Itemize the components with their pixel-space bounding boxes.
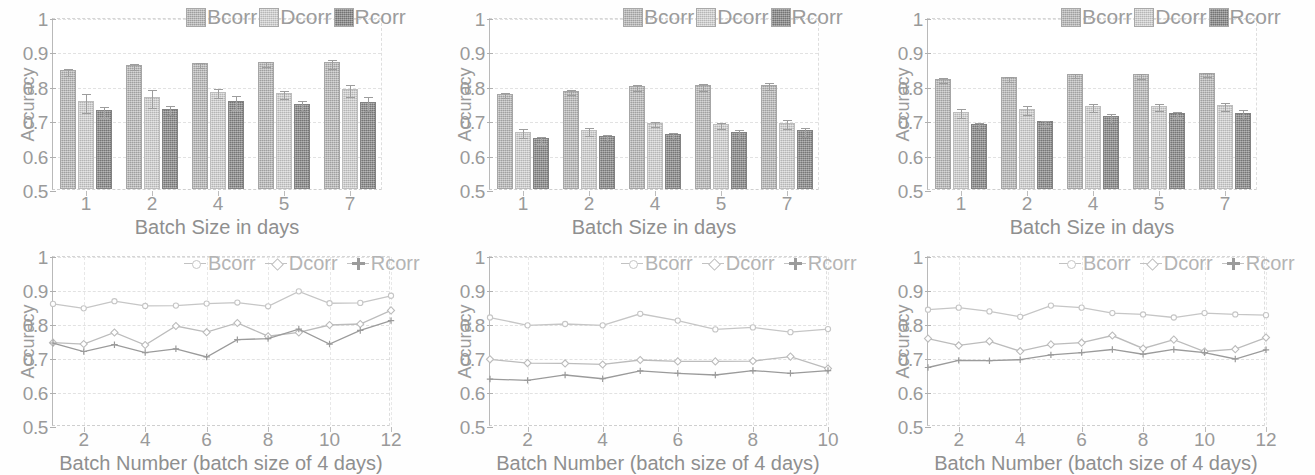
error-bar-cap-upper — [1137, 74, 1146, 75]
error-bar-cap-lower — [148, 108, 157, 109]
y-axis-label: Accuracy — [18, 55, 39, 155]
marker-bcorr — [600, 323, 605, 328]
y-tick-mark — [925, 53, 931, 54]
error-bar-cap-lower — [1173, 118, 1182, 119]
y-tick-label: 0.5 — [23, 182, 48, 201]
legend-label: Rcorr — [1246, 252, 1295, 275]
marker-bcorr — [204, 301, 209, 306]
y-tick-label: 0.5 — [898, 418, 923, 437]
x-tick-mark — [678, 427, 679, 432]
legend-marker-symbol — [1146, 258, 1159, 271]
x-tick-mark — [218, 191, 219, 196]
error-bar-cap-lower — [280, 99, 289, 100]
line-rcorr — [928, 349, 1266, 367]
marker-dcorr — [599, 361, 606, 368]
legend-label: Rcorr — [792, 5, 843, 29]
marker-bcorr — [143, 303, 148, 308]
error-bar-cap-upper — [232, 96, 241, 97]
x-tick-label: 10 — [1194, 430, 1215, 449]
error-bar-cap-lower — [783, 129, 792, 130]
legend-swatch-dcorr — [259, 8, 279, 27]
x-tick-label: 7 — [1220, 194, 1231, 213]
y-axis-label: Accuracy — [893, 55, 914, 155]
y-tick-label: 1 — [913, 10, 923, 29]
error-bar-cap-upper — [735, 130, 744, 131]
x-tick-label: 4 — [1015, 430, 1026, 449]
y-axis-label: Accuracy — [893, 292, 914, 392]
x-axis-label: Batch Size in days — [52, 216, 382, 239]
marker-dcorr — [172, 322, 179, 329]
error-bar-cap-upper — [82, 94, 91, 95]
legend-marker-symbol — [629, 260, 638, 269]
error-bar — [523, 129, 524, 138]
x-tick-label: 12 — [1255, 430, 1276, 449]
marker-dcorr — [111, 329, 118, 336]
marker-dcorr — [924, 335, 931, 342]
error-bar — [769, 83, 770, 90]
error-bar-cap-upper — [1239, 110, 1248, 111]
bar-rcorr — [1235, 113, 1251, 189]
bar-rcorr — [731, 132, 747, 189]
legend-swatch-bcorr — [186, 8, 206, 27]
x-tick-mark — [1143, 427, 1144, 432]
error-bar-cap-upper — [699, 84, 708, 85]
marker-rcorr — [1171, 346, 1177, 352]
marker-bcorr — [825, 326, 830, 331]
error-bar-cap-lower — [651, 127, 660, 128]
bar-rcorr — [96, 110, 112, 189]
error-bar-cap-lower — [130, 70, 139, 71]
y-tick-mark — [925, 191, 931, 192]
chart-legend: BcorrDcorrRcorr — [623, 5, 845, 29]
bar-rcorr — [294, 104, 310, 189]
bar-rcorr — [1169, 113, 1185, 189]
marker-rcorr — [1263, 347, 1269, 353]
x-tick-label: 6 — [201, 430, 212, 449]
marker-rcorr — [326, 341, 332, 347]
error-bar-cap-lower — [1239, 119, 1248, 120]
bar-rcorr — [599, 136, 615, 189]
marker-dcorr — [1140, 345, 1147, 352]
error-bar-cap-upper — [669, 133, 678, 134]
x-tick-mark — [1027, 191, 1028, 196]
marker-rcorr — [1140, 351, 1146, 357]
y-axis-label: Accuracy — [455, 55, 476, 155]
y-tick-mark — [487, 427, 493, 428]
x-tick-label: 4 — [650, 194, 661, 213]
marker-bcorr — [1018, 314, 1023, 319]
error-bar-cap-lower — [64, 76, 73, 77]
legend-marker-line — [347, 263, 369, 264]
y-tick-mark — [50, 53, 56, 54]
legend-entry-bcorr: Bcorr — [621, 252, 693, 275]
error-bar — [332, 60, 333, 69]
x-tick-mark — [1020, 427, 1021, 432]
bar-dcorr — [581, 130, 597, 189]
marker-dcorr — [637, 356, 644, 363]
legend-entry-dcorr: Dcorr — [702, 252, 775, 275]
error-bar — [1225, 103, 1226, 111]
error-bar-cap-lower — [328, 69, 337, 70]
x-tick-label: 2 — [522, 430, 533, 449]
bar-bcorr — [761, 85, 777, 189]
bar-dcorr — [779, 123, 795, 189]
bar-rcorr — [360, 102, 376, 189]
error-bar-cap-upper — [585, 128, 594, 129]
error-bar — [152, 90, 153, 109]
error-bar-cap-lower — [1203, 77, 1212, 78]
error-bar — [805, 128, 806, 137]
x-tick-label: 2 — [584, 194, 595, 213]
marker-dcorr — [712, 358, 719, 365]
x-axis-label: Batch Number (batch size of 4 days) — [927, 452, 1265, 475]
x-tick-mark — [787, 191, 788, 196]
line-dcorr — [490, 357, 828, 369]
error-bar-cap-upper — [262, 62, 271, 63]
error-bar-cap-lower — [1071, 78, 1080, 79]
error-bar-cap-upper — [1071, 74, 1080, 75]
legend-marker-symbol — [271, 258, 284, 271]
x-tick-mark — [1093, 191, 1094, 196]
error-bar — [541, 137, 542, 145]
error-bar-cap-upper — [957, 109, 966, 110]
marker-rcorr — [1109, 346, 1115, 352]
marker-bcorr — [388, 293, 393, 298]
marker-rcorr — [524, 377, 530, 383]
error-bar-cap-upper — [1041, 121, 1050, 122]
